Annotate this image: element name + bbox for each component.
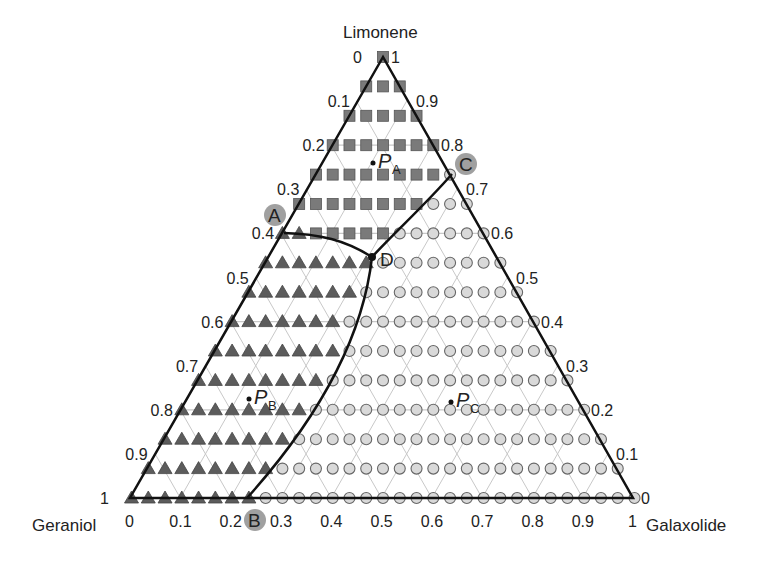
circle-marker [461,463,472,474]
right-tick-label: 0 [641,490,650,507]
circle-marker [562,463,573,474]
right-tick-label: 0.5 [516,270,538,287]
circle-marker [562,404,573,415]
square-marker [361,140,372,151]
triangle-marker [292,373,306,385]
circle-marker [495,287,506,298]
circle-marker [428,375,439,386]
triangle-marker [192,462,206,474]
triangle-marker [225,432,239,444]
triangle-marker [208,403,222,415]
triangle-marker [175,432,189,444]
circle-marker [411,434,422,445]
triangle-marker [242,373,256,385]
circle-marker [394,257,405,268]
bottom-tick-label: 1 [628,513,637,530]
circle-marker [445,287,456,298]
triangle-marker [242,315,256,327]
circle-marker [478,463,489,474]
point-D [368,253,376,261]
right-tick-label: 0.3 [566,358,588,375]
circle-marker [344,316,355,327]
triangle-marker [192,403,206,415]
triangle-marker [275,373,289,385]
left-tick-label: 0.5 [227,270,249,287]
square-marker [428,169,439,180]
square-marker [361,199,372,210]
square-marker [378,81,389,92]
circle-marker [478,287,489,298]
circle-marker [394,287,405,298]
circle-marker [327,404,338,415]
circle-marker [361,316,372,327]
circle-marker [512,463,523,474]
circle-marker [428,463,439,474]
circle-marker [428,404,439,415]
circle-marker [378,346,389,357]
triangle-marker [259,432,273,444]
bottom-tick-label: 0 [125,513,134,530]
triangle-marker [292,403,306,415]
circle-marker [445,257,456,268]
square-marker [361,110,372,121]
left-tick-label: 0.3 [277,181,299,198]
bottom-tick-label: 0.4 [320,513,342,530]
circle-marker [428,257,439,268]
right-tick-label: 0.1 [616,446,638,463]
corner-label-D: D [380,249,394,270]
circle-marker [344,463,355,474]
circle-marker [495,434,506,445]
triangle-marker [225,462,239,474]
circle-marker [378,463,389,474]
bottom-tick-label: 0.1 [169,513,191,530]
corner-label-A: A [268,205,281,226]
square-marker [344,199,355,210]
circle-marker [411,404,422,415]
right-tick-label: 0.8 [441,137,463,154]
vertex-label-geraniol: Geraniol [32,516,96,535]
svg-text:A: A [392,162,401,177]
triangle-marker [259,344,273,356]
circle-marker [461,434,472,445]
circle-marker [445,404,456,415]
svg-text:B: B [268,398,277,413]
circle-marker [461,316,472,327]
right-tick-label: 0.6 [491,225,513,242]
left-tick-label: 0.7 [176,358,198,375]
circle-marker [478,434,489,445]
corner-label-C: C [459,154,473,175]
left-tick-label: 0 [353,49,362,66]
circle-marker [394,375,405,386]
right-tick-label: 1 [391,49,400,66]
circle-marker [344,434,355,445]
circle-marker [478,404,489,415]
triangle-marker [275,344,289,356]
square-marker [344,169,355,180]
right-tick-label: 0.4 [541,314,563,331]
circle-marker [310,463,321,474]
svg-text:P: P [378,150,392,172]
circle-marker [378,404,389,415]
square-marker [327,199,338,210]
triangle-frame [130,57,633,498]
circle-marker [545,375,556,386]
left-tick-label: 0.2 [302,137,324,154]
circle-marker [545,463,556,474]
triangle-marker [225,344,239,356]
square-marker [378,110,389,121]
right-tick-label: 0.2 [591,402,613,419]
circle-marker [411,463,422,474]
ternary-diagram: A B C D Limonene Geraniol Galaxolide 010… [0,0,776,566]
square-marker [411,169,422,180]
circle-marker [512,375,523,386]
square-marker [310,199,321,210]
circle-marker [327,434,338,445]
circle-marker [495,316,506,327]
circle-marker [411,375,422,386]
triangle-marker [326,344,340,356]
circle-marker [428,287,439,298]
circle-marker [411,346,422,357]
circle-marker [461,375,472,386]
circle-marker [579,463,590,474]
circle-marker [478,375,489,386]
